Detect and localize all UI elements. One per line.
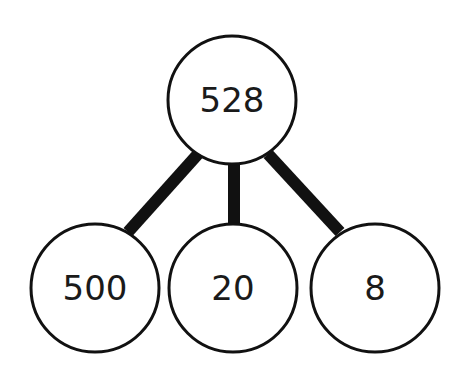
number-bond-diagram: 528 500 20 8 xyxy=(0,0,453,379)
connector-root-to-8 xyxy=(268,154,340,232)
child-node-8: 8 xyxy=(311,224,439,352)
child-node-label: 20 xyxy=(211,268,254,308)
connector-root-to-500 xyxy=(128,154,198,232)
child-node-label: 500 xyxy=(63,268,128,308)
child-node-500: 500 xyxy=(31,224,159,352)
root-node-label: 528 xyxy=(200,80,265,120)
child-node-label: 8 xyxy=(364,268,386,308)
root-node: 528 xyxy=(168,36,296,164)
child-node-20: 20 xyxy=(169,224,297,352)
